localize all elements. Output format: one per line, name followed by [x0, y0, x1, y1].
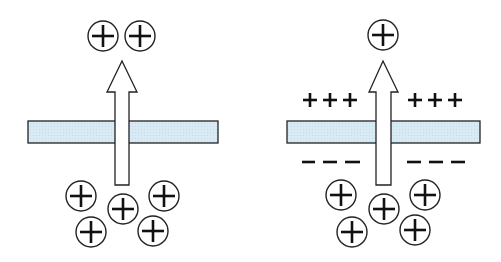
ions-below-right	[326, 180, 440, 247]
panel-right-charged-membrane	[287, 20, 480, 247]
ions-above-left	[88, 21, 155, 51]
ions-below-left	[66, 181, 179, 247]
cation-icon	[138, 216, 168, 246]
cation-icon	[326, 180, 356, 210]
cation-icon	[88, 21, 118, 51]
cation-icon	[76, 217, 106, 247]
cation-icon	[108, 194, 138, 224]
ions-above-right	[368, 20, 398, 50]
cation-icon	[149, 181, 179, 211]
diagram-canvas	[0, 0, 501, 262]
panel-left-uncharged-membrane	[28, 21, 218, 247]
plus-charges-right	[408, 93, 462, 107]
cation-icon	[337, 217, 367, 247]
cation-icon	[410, 180, 440, 210]
cation-icon	[400, 215, 430, 245]
cation-icon	[125, 21, 155, 51]
cation-icon	[66, 181, 96, 211]
cation-icon	[369, 194, 399, 224]
cation-icon	[368, 20, 398, 50]
plus-charges-left	[303, 93, 357, 107]
